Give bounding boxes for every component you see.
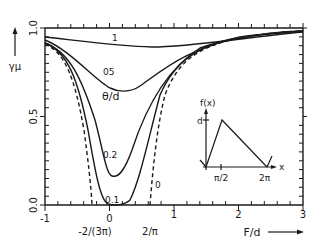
svg-text:2/π: 2/π bbox=[142, 226, 158, 237]
curve-labels: 1 05 0.2 0.1 0 θ/d bbox=[102, 33, 161, 205]
svg-text:2π: 2π bbox=[259, 173, 271, 183]
arrow-up-icon bbox=[13, 27, 18, 34]
inset-diagram bbox=[200, 108, 277, 170]
svg-text:0.0: 0.0 bbox=[28, 197, 39, 213]
arrow-right-icon bbox=[297, 230, 304, 235]
svg-text:0: 0 bbox=[155, 180, 161, 190]
svg-text:3: 3 bbox=[300, 209, 306, 220]
svg-text:2: 2 bbox=[235, 209, 241, 220]
y-tick-labels: 0.0 0.5 1.0 bbox=[28, 20, 39, 213]
x-extra-labels: -2/(3π) 2/π bbox=[78, 226, 158, 237]
svg-text:f(x): f(x) bbox=[200, 98, 216, 108]
x-axis-label: F/d bbox=[243, 226, 304, 239]
svg-text:0.1: 0.1 bbox=[105, 195, 119, 205]
svg-text:1.0: 1.0 bbox=[28, 20, 39, 36]
svg-text:-2/(3π): -2/(3π) bbox=[78, 226, 112, 237]
y-axis-label: γμ bbox=[9, 27, 22, 72]
svg-text:d: d bbox=[197, 116, 203, 126]
svg-text:x: x bbox=[279, 162, 285, 172]
svg-text:1: 1 bbox=[112, 33, 118, 43]
svg-text:γμ: γμ bbox=[9, 61, 22, 72]
svg-text:π/2: π/2 bbox=[214, 173, 228, 183]
svg-text:0.2: 0.2 bbox=[103, 150, 117, 160]
curve-02 bbox=[45, 31, 303, 176]
svg-text:θ/d: θ/d bbox=[102, 90, 119, 103]
svg-text:0.5: 0.5 bbox=[28, 109, 39, 125]
svg-text:F/d: F/d bbox=[243, 226, 260, 239]
chart-figure: -1 0 1 2 3 -2/(3π) 2/π 0.0 0.5 1.0 γμ F/… bbox=[0, 0, 322, 248]
svg-text:1: 1 bbox=[171, 209, 177, 220]
svg-text:05: 05 bbox=[103, 67, 114, 77]
curve-05 bbox=[45, 31, 303, 91]
x-tick-labels: -1 0 1 2 3 bbox=[40, 209, 306, 224]
svg-text:0: 0 bbox=[106, 213, 112, 224]
svg-text:-1: -1 bbox=[40, 213, 50, 224]
